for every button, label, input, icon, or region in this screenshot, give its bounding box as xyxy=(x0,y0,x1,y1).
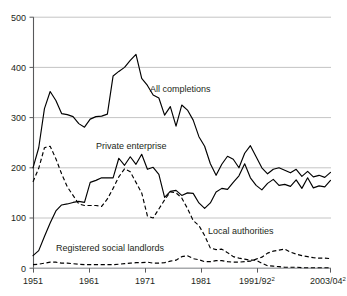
series-label-all-completions: All completions xyxy=(150,84,211,94)
gridlines xyxy=(33,17,331,218)
series-label-registered-social-landlords: Registered social landlords xyxy=(56,243,165,253)
xtick-label-1981: 1981 xyxy=(191,276,211,286)
x-axis-labels: 1951 1961 1971 1981 1991/922 2003/042 xyxy=(23,276,347,287)
ytick-label-500: 500 xyxy=(11,13,26,23)
xtick-label-1951: 1951 xyxy=(23,276,43,286)
xtick-label-1991: 1991/922 xyxy=(239,276,276,287)
series-line-all-completions xyxy=(33,54,331,177)
chart-canvas: 500 400 300 200 100 0 1951 1961 1971 198… xyxy=(0,0,347,296)
y-axis-labels: 500 400 300 200 100 0 xyxy=(11,13,26,274)
series-label-local-authorities: Local authorities xyxy=(208,226,274,236)
xtick-label-2003: 2003/042 xyxy=(310,276,347,287)
line-chart: 500 400 300 200 100 0 1951 1961 1971 198… xyxy=(0,0,347,296)
y-axis-tickmarks xyxy=(30,17,34,268)
xtick-label-1971: 1971 xyxy=(135,276,155,286)
series-label-private-enterprise: Private enterprise xyxy=(96,141,167,151)
xtick-label-1991-text: 1991/92 xyxy=(239,276,272,286)
xtick-label-2003-text: 2003/04 xyxy=(310,276,343,286)
xtick-label-1961: 1961 xyxy=(79,276,99,286)
ytick-label-200: 200 xyxy=(11,163,26,173)
ytick-label-400: 400 xyxy=(11,63,26,73)
xtick-label-2003-superscript: 2 xyxy=(343,276,347,282)
ytick-label-0: 0 xyxy=(21,264,26,274)
series-annotations: All completions Private enterprise Local… xyxy=(56,84,274,253)
series-line-private-enterprise xyxy=(33,154,331,255)
xtick-label-1991-superscript: 2 xyxy=(272,276,276,282)
ytick-label-300: 300 xyxy=(11,113,26,123)
ytick-label-100: 100 xyxy=(11,213,26,223)
